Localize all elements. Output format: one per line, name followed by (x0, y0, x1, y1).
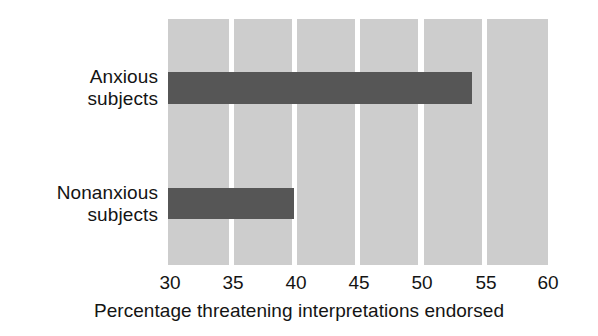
category-label-anxious-line1: Anxious (28, 66, 158, 88)
bar-anxious-subjects (168, 72, 472, 104)
plot-band-55-60 (487, 19, 548, 265)
plot-band-45-50 (360, 19, 418, 265)
category-label-nonanxious-line2: subjects (18, 204, 158, 226)
category-label-nonanxious-line1: Nonanxious (18, 182, 158, 204)
plot-band-40-45 (297, 19, 355, 265)
x-tick-label-35: 35 (211, 272, 255, 294)
category-label-nonanxious-subjects: Nonanxious subjects (18, 182, 158, 226)
gridline-40 (292, 19, 297, 265)
x-tick-label-60: 60 (526, 272, 570, 294)
plot-area (168, 19, 548, 265)
x-axis-title: Percentage threatening interpretations e… (0, 300, 598, 322)
gridline-45 (355, 19, 360, 265)
x-tick-label-55: 55 (464, 272, 508, 294)
x-tick-label-40: 40 (274, 272, 318, 294)
category-label-anxious-line2: subjects (28, 88, 158, 110)
bar-nonanxious-subjects (168, 188, 294, 219)
plot-band-35-40 (234, 19, 292, 265)
x-tick-label-30: 30 (148, 272, 192, 294)
x-tick-label-45: 45 (337, 272, 381, 294)
gridline-50 (418, 19, 423, 265)
plot-band-30-35 (168, 19, 229, 265)
bar-chart-figure: Anxious subjects Nonanxious subjects 30 … (0, 0, 598, 336)
plot-band-50-55 (424, 19, 482, 265)
x-tick-label-50: 50 (400, 272, 444, 294)
gridline-55 (482, 19, 487, 265)
category-label-anxious-subjects: Anxious subjects (28, 66, 158, 110)
gridline-35 (229, 19, 234, 265)
